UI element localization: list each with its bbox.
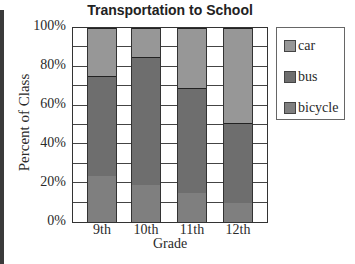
segment-bus [178,88,206,193]
legend-label: bus [298,69,317,85]
segment-bus [88,76,116,177]
segment-bicycle [224,203,252,222]
y-tick-label: 20% [6,174,66,190]
segment-car [132,28,160,57]
plot-area [72,27,268,223]
legend-label: bicycle [298,100,338,116]
segment-car [224,28,252,123]
legend-item-bicycle: bicycle [284,101,338,115]
legend: carbusbicycle [276,27,345,120]
segment-bus [224,123,252,203]
legend-label: car [298,38,315,54]
segment-bicycle [132,185,160,222]
legend-swatch [284,102,296,114]
segment-bicycle [178,193,206,222]
segment-car [88,28,116,76]
chart-title: Transportation to School [72,2,268,18]
segment-bus [132,57,160,185]
segment-bicycle [88,176,116,222]
legend-item-car: car [284,39,315,53]
legend-item-bus: bus [284,70,317,84]
legend-swatch [284,71,296,83]
bar-11th [177,28,207,222]
y-axis-label: Percent of Class [16,63,33,183]
legend-swatch [284,40,296,52]
scan-edge-artifact [0,10,4,264]
y-tick-label: 60% [6,96,66,112]
y-tick-label: 40% [6,135,66,151]
bar-9th [87,28,117,222]
y-tick-label: 80% [6,57,66,73]
bar-12th [223,28,253,222]
x-axis-label: Grade [72,236,268,252]
y-tick-label: 0% [6,213,66,229]
segment-car [178,28,206,88]
bar-10th [131,28,161,222]
y-tick-label: 100% [6,18,66,34]
